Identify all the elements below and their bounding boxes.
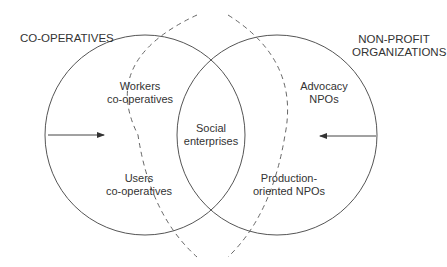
production-l2: oriented NPOs <box>249 185 329 198</box>
workers-l2: co-operatives <box>105 93 175 106</box>
users-l2: co-operatives <box>104 185 174 198</box>
cooperatives-title: CO-OPERATIVES <box>20 32 114 45</box>
advocacy-l2: NPOs <box>294 93 354 106</box>
production-npos-label: Production- oriented NPOs <box>249 172 329 198</box>
workers-l1: Workers <box>105 80 175 93</box>
advocacy-l1: Advocacy <box>294 80 354 93</box>
users-cooperatives-label: Users co-operatives <box>104 172 174 198</box>
social-l1: Social <box>176 122 246 135</box>
nonprofit-title-line1: NON-PROFIT <box>352 33 436 46</box>
nonprofit-title: NON-PROFIT ORGANIZATIONS <box>352 33 436 59</box>
social-enterprises-label: Social enterprises <box>176 122 246 148</box>
nonprofit-title-line2: ORGANIZATIONS <box>352 46 436 59</box>
social-l2: enterprises <box>176 135 246 148</box>
advocacy-npos-label: Advocacy NPOs <box>294 80 354 106</box>
production-l1: Production- <box>249 172 329 185</box>
users-l1: Users <box>104 172 174 185</box>
workers-cooperatives-label: Workers co-operatives <box>105 80 175 106</box>
